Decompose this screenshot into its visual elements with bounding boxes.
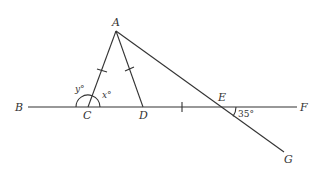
angle-label-y: y° — [74, 84, 85, 94]
label-e: E — [217, 91, 226, 104]
label-g: G — [284, 153, 293, 166]
angle-label-35: 35° — [238, 109, 254, 119]
geometry-diagram: A B C D E F G y° x° 35° — [0, 0, 316, 176]
label-b: B — [14, 101, 23, 114]
angle-label-x: x° — [102, 90, 112, 100]
label-f: F — [299, 101, 308, 114]
label-d: D — [138, 109, 148, 122]
angle-arc-x — [92, 96, 100, 107]
label-c: C — [83, 109, 92, 122]
angle-arc-35 — [233, 107, 236, 116]
label-a: A — [111, 16, 120, 29]
line-ag — [116, 31, 284, 152]
